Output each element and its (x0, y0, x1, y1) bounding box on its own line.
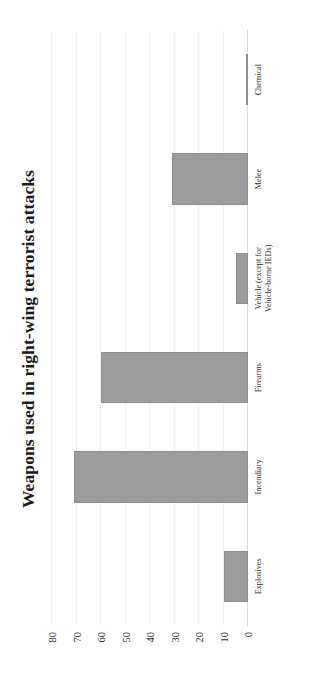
category-label: Firearms (254, 321, 264, 435)
value-tick-label: 10 (218, 632, 229, 672)
plot-area (52, 30, 248, 626)
axis-baseline (247, 30, 248, 626)
bar (172, 153, 248, 205)
value-tick-label: 30 (169, 632, 180, 672)
rotated-chart-wrapper: Weapons used in right-wing terrorist att… (0, 0, 316, 678)
figure-frame: Weapons used in right-wing terrorist att… (0, 0, 316, 678)
value-tick-label: 0 (243, 632, 254, 672)
gridline (198, 30, 199, 626)
bar (236, 253, 248, 305)
gridline (100, 30, 101, 626)
gridline (223, 30, 224, 626)
bar (101, 352, 248, 404)
gridline (125, 30, 126, 626)
gridline (174, 30, 175, 626)
bar (224, 551, 249, 603)
gridline (149, 30, 150, 626)
value-tick-label: 70 (71, 632, 82, 672)
category-label: Explosives (254, 519, 264, 633)
bar (246, 54, 248, 106)
gridline (51, 30, 52, 626)
value-tick-label: 80 (47, 632, 58, 672)
value-tick-label: 40 (145, 632, 156, 672)
category-label: Chemical (254, 23, 264, 137)
value-tick-label: 60 (96, 632, 107, 672)
chart-title: Weapons used in right-wing terrorist att… (18, 0, 39, 678)
gridline (76, 30, 77, 626)
chart-canvas: Weapons used in right-wing terrorist att… (0, 0, 316, 678)
value-tick-label: 50 (120, 632, 131, 672)
value-tick-label: 20 (194, 632, 205, 672)
category-label: Incendiary (254, 420, 264, 534)
category-label: Melee (254, 122, 264, 236)
category-label: Vehicle (except for Vehicle-borne IEDs) (254, 221, 273, 335)
bar (74, 451, 248, 503)
